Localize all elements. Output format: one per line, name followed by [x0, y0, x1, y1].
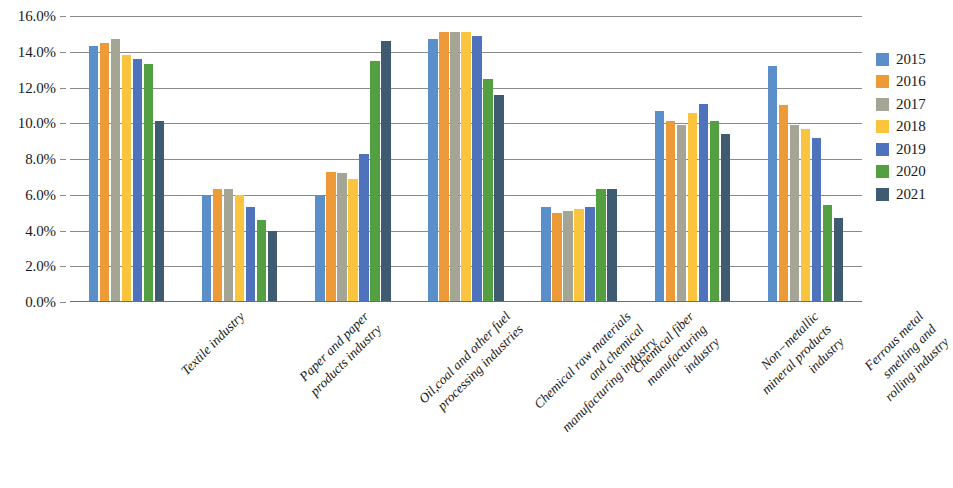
bar-2015[interactable] [768, 66, 778, 302]
bar-2021[interactable] [494, 95, 504, 302]
legend-label: 2018 [896, 119, 926, 134]
bar-2016[interactable] [326, 172, 336, 302]
y-tick-mark [60, 195, 66, 196]
legend-label: 2016 [896, 74, 926, 89]
legend-label: 2015 [896, 52, 926, 67]
x-tick-label: Chemical fibermanufacturingindustry [629, 308, 724, 403]
bar-2017[interactable] [790, 125, 800, 302]
bar-2019[interactable] [246, 207, 256, 302]
y-tick-mark [60, 302, 66, 303]
bar-2015[interactable] [89, 46, 99, 302]
y-tick-mark [60, 52, 66, 53]
bar-group [296, 16, 409, 302]
bar-2017[interactable] [111, 39, 121, 302]
y-tick-label: 0.0% [25, 295, 56, 310]
plot-area [70, 16, 862, 302]
bar-2019[interactable] [359, 154, 369, 302]
y-tick-label: 8.0% [25, 152, 56, 167]
bar-2016[interactable] [666, 121, 676, 302]
bar-2021[interactable] [268, 231, 278, 303]
legend-item-2021[interactable]: 2021 [876, 183, 944, 206]
legend-swatch [876, 75, 889, 88]
bar-2019[interactable] [699, 104, 709, 302]
bar-2021[interactable] [607, 189, 617, 302]
x-tick-label: Ferrous metalsmelting androlling industr… [856, 308, 953, 405]
legend-swatch [876, 143, 889, 156]
bar-group [183, 16, 296, 302]
bar-2018[interactable] [688, 113, 698, 302]
y-tick-label: 4.0% [25, 223, 56, 238]
legend-item-2018[interactable]: 2018 [876, 116, 944, 139]
bar-2019[interactable] [472, 36, 482, 302]
y-tick-label: 16.0% [18, 9, 56, 24]
bar-group [523, 16, 636, 302]
legend-swatch [876, 188, 889, 201]
bar-2018[interactable] [235, 195, 245, 302]
x-axis-labels: Textile industryPaper and paperproducts … [70, 302, 862, 482]
y-tick-mark [60, 88, 66, 89]
bar-2021[interactable] [721, 134, 731, 302]
legend-swatch [876, 120, 889, 133]
legend-label: 2017 [896, 97, 926, 112]
legend-item-2017[interactable]: 2017 [876, 93, 944, 116]
bar-groups [70, 16, 862, 302]
bar-2019[interactable] [585, 207, 595, 302]
x-tick-label: Paper and paperproducts industry [293, 308, 385, 400]
bar-2021[interactable] [155, 121, 165, 302]
x-tick-label-line: Textile industry [177, 308, 248, 379]
legend-label: 2020 [896, 164, 926, 179]
legend-item-2020[interactable]: 2020 [876, 161, 944, 184]
bar-2017[interactable] [677, 125, 687, 302]
legend-swatch [876, 53, 889, 66]
y-axis: 0.0%2.0%4.0%6.0%8.0%10.0%12.0%14.0%16.0% [0, 0, 66, 302]
bar-2017[interactable] [450, 32, 460, 302]
bar-2015[interactable] [428, 39, 438, 302]
y-tick-mark [60, 16, 66, 17]
bar-2020[interactable] [823, 205, 833, 302]
legend-swatch [876, 98, 889, 111]
bar-2016[interactable] [100, 43, 110, 302]
legend-swatch [876, 165, 889, 178]
bar-2020[interactable] [483, 79, 493, 302]
bar-2015[interactable] [202, 195, 212, 302]
legend-item-2019[interactable]: 2019 [876, 138, 944, 161]
bar-group [749, 16, 862, 302]
legend-item-2015[interactable]: 2015 [876, 48, 944, 71]
legend-label: 2021 [896, 187, 926, 202]
bar-2020[interactable] [596, 189, 606, 302]
legend-item-2016[interactable]: 2016 [876, 71, 944, 94]
legend: 2015201620172018201920202021 [876, 48, 944, 206]
bar-2019[interactable] [133, 59, 143, 302]
y-tick-label: 12.0% [18, 80, 56, 95]
bar-2016[interactable] [439, 32, 449, 302]
bar-2015[interactable] [541, 207, 551, 302]
bar-group [70, 16, 183, 302]
bar-2016[interactable] [552, 213, 562, 302]
y-tick-mark [60, 231, 66, 232]
y-tick-mark [60, 266, 66, 267]
bar-2020[interactable] [370, 61, 380, 302]
bar-2020[interactable] [710, 121, 720, 302]
bar-group [409, 16, 522, 302]
bar-2016[interactable] [779, 105, 789, 302]
legend-label: 2019 [896, 142, 926, 157]
bar-2017[interactable] [224, 189, 234, 302]
bar-2020[interactable] [257, 220, 267, 302]
bar-2018[interactable] [122, 55, 132, 302]
bar-2015[interactable] [655, 111, 665, 302]
bar-2017[interactable] [563, 211, 573, 302]
x-tick-label: Non−metallicmineral productsindustry [745, 308, 848, 411]
bar-2019[interactable] [812, 138, 822, 302]
bar-2018[interactable] [348, 179, 358, 302]
bar-2018[interactable] [574, 209, 584, 302]
bar-2021[interactable] [834, 218, 844, 302]
bar-group [636, 16, 749, 302]
bar-2021[interactable] [381, 41, 391, 302]
bar-2015[interactable] [315, 195, 325, 302]
bar-2017[interactable] [337, 173, 347, 302]
bar-2020[interactable] [144, 64, 154, 302]
bar-2018[interactable] [461, 32, 471, 302]
bar-2018[interactable] [801, 129, 811, 302]
bar-2016[interactable] [213, 189, 223, 302]
